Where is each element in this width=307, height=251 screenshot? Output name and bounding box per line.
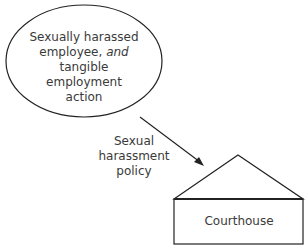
arrow-label-line-2: harassment policy — [80, 149, 188, 179]
ellipse-line-1: Sexually harassed — [22, 30, 146, 45]
ellipse-line-2-emphasis: and — [106, 45, 129, 59]
arrow-label: Sexual harassment policy — [80, 134, 188, 179]
arrow-label-line-1: Sexual — [80, 134, 188, 149]
ellipse-line-4: action — [22, 90, 146, 105]
ellipse-line-2-text: employee, — [39, 45, 106, 59]
ellipse-line-3: tangible employment — [22, 60, 146, 90]
ellipse-line-2: employee, and — [22, 45, 146, 60]
courthouse-label: Courthouse — [174, 214, 304, 229]
courthouse-roof — [174, 155, 303, 199]
ellipse-label: Sexually harassed employee, and tangible… — [22, 30, 146, 105]
